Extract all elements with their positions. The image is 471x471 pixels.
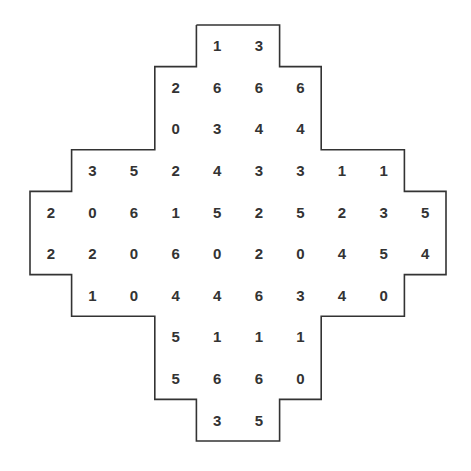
grid-cell[interactable]: 3 [196,399,238,441]
grid-cell[interactable]: 4 [196,150,238,192]
grid-cell[interactable]: 2 [155,150,197,192]
grid-cell[interactable]: 0 [363,275,405,317]
grid-cell[interactable]: 2 [30,191,72,233]
grid-cell[interactable]: 2 [155,67,197,109]
grid-cell[interactable]: 1 [72,275,114,317]
grid-cell[interactable]: 4 [196,275,238,317]
grid-cell[interactable]: 2 [238,191,280,233]
grid-cell[interactable]: 3 [363,191,405,233]
puzzle-board: 1326660344352433112061525235220602045410… [0,0,471,471]
grid-cell[interactable]: 0 [113,275,155,317]
grid-cell[interactable]: 4 [321,275,363,317]
grid-cell[interactable]: 5 [196,191,238,233]
grid-cell[interactable]: 2 [321,191,363,233]
grid-cell[interactable]: 5 [404,191,446,233]
grid-cell[interactable]: 0 [72,191,114,233]
grid-cell[interactable]: 3 [72,150,114,192]
grid-cell[interactable]: 3 [238,150,280,192]
grid-cell[interactable]: 4 [238,108,280,150]
grid-cell[interactable]: 4 [404,233,446,275]
grid-cell[interactable]: 5 [155,316,197,358]
grid-cell[interactable]: 5 [155,358,197,400]
grid-cell[interactable]: 6 [196,358,238,400]
grid-cell[interactable]: 0 [155,108,197,150]
grid-cell[interactable]: 0 [196,233,238,275]
grid-cell[interactable]: 2 [30,233,72,275]
grid-cell[interactable]: 3 [280,150,322,192]
grid-cell[interactable]: 3 [196,108,238,150]
grid-cell[interactable]: 5 [363,233,405,275]
grid-cell[interactable]: 0 [280,233,322,275]
grid-cell[interactable]: 3 [238,25,280,67]
grid-cell[interactable]: 5 [280,191,322,233]
grid-cell[interactable]: 1 [196,25,238,67]
grid-cell[interactable]: 2 [72,233,114,275]
grid-cell[interactable]: 4 [321,233,363,275]
grid-cell[interactable]: 1 [196,316,238,358]
grid-cell[interactable]: 0 [280,358,322,400]
grid-cell[interactable]: 5 [238,399,280,441]
grid-cell[interactable]: 6 [113,191,155,233]
grid-cell[interactable]: 1 [321,150,363,192]
grid-cell[interactable]: 5 [113,150,155,192]
grid-cell[interactable]: 0 [113,233,155,275]
grid-cell[interactable]: 1 [238,316,280,358]
grid-cell[interactable]: 6 [196,67,238,109]
grid-cell[interactable]: 6 [280,67,322,109]
grid-cell[interactable]: 1 [280,316,322,358]
grid-cell[interactable]: 3 [280,275,322,317]
grid-cell[interactable]: 4 [280,108,322,150]
grid-cell[interactable]: 1 [363,150,405,192]
grid-cell[interactable]: 4 [155,275,197,317]
grid-cell[interactable]: 6 [155,233,197,275]
grid-cell[interactable]: 6 [238,67,280,109]
grid-cell[interactable]: 1 [155,191,197,233]
grid-cell[interactable]: 6 [238,275,280,317]
grid-cell[interactable]: 2 [238,233,280,275]
grid-cell[interactable]: 6 [238,358,280,400]
